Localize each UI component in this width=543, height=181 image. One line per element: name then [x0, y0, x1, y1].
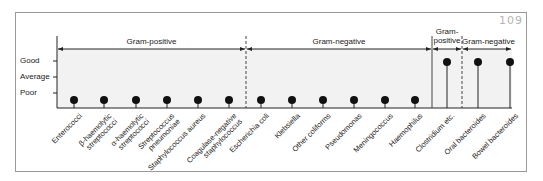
y-label-average: Average [20, 72, 50, 81]
lollipop-dot [319, 96, 327, 104]
group-label-gram-negative: Gram-negative [246, 37, 432, 46]
plot-area [57, 49, 512, 108]
group-label-gram-positive: Gram-positive [432, 27, 462, 45]
lollipop-dot [194, 96, 202, 104]
group-label-gram-positive: Gram-positive [57, 37, 246, 46]
lollipop-dot [163, 96, 171, 104]
group-label-gram-negative: Gram-negative [462, 37, 512, 46]
lollipop-dot [411, 96, 419, 104]
lollipop-dot [474, 58, 482, 66]
lollipop-dot [506, 58, 514, 66]
y-label-good: Good [20, 56, 40, 65]
lollipop-dot [288, 96, 296, 104]
lollipop-dot [381, 96, 389, 104]
lollipop-dot [257, 96, 265, 104]
lollipop-dot [100, 96, 108, 104]
lollipop-dot [350, 96, 358, 104]
lollipop-dot [225, 96, 233, 104]
lollipop-dot [443, 58, 451, 66]
lollipop-dot [70, 96, 78, 104]
lollipop-dot [132, 96, 140, 104]
y-label-poor: Poor [20, 88, 37, 97]
